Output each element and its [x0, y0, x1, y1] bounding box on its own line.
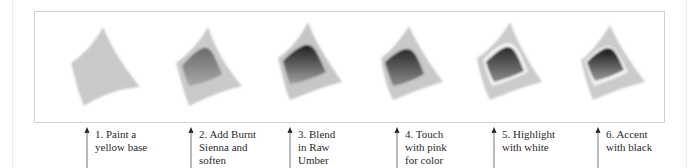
stage-6-shape: [581, 25, 645, 100]
pointer-arrow-icon: [286, 127, 294, 168]
step-2-label: 2. Add Burnt Sienna and soften: [199, 128, 256, 167]
step-6-label: 6. Accent with black: [606, 128, 652, 154]
stage-1-shape: [71, 27, 140, 106]
pointer-arrow-icon: [594, 127, 602, 168]
step-1-label: 1. Paint a yellow base: [95, 128, 147, 154]
stage-5-shape: [477, 22, 542, 100]
pointer-arrow-icon: [393, 127, 401, 168]
stage-2-shape: [176, 27, 242, 106]
pointer-arrow-icon: [187, 127, 195, 168]
pointer-arrow-icon: [490, 127, 498, 168]
stage-3-shape: [278, 22, 342, 100]
pointer-arrow-icon: [83, 127, 91, 168]
step-5-label: 5. Highlight with white: [502, 128, 555, 154]
stage-4-shape: [381, 26, 443, 100]
step-4-label: 4. Touch with pink for color: [405, 128, 447, 167]
step-3-label: 3. Blend in Raw Umber: [298, 128, 335, 167]
